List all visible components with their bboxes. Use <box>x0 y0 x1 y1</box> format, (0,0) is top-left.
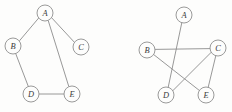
graph-left-nodes: ABCDE <box>5 5 89 102</box>
edge-a-e <box>48 21 68 86</box>
node-c[interactable]: C <box>73 39 89 55</box>
edge-c-e <box>208 56 216 88</box>
node-label-b: B <box>10 42 15 51</box>
node-e[interactable]: E <box>198 87 214 103</box>
node-a[interactable]: A <box>176 7 192 23</box>
node-a[interactable]: A <box>37 5 53 21</box>
edge-b-e <box>154 55 200 91</box>
node-d[interactable]: D <box>158 87 174 103</box>
node-label-a: A <box>41 9 48 18</box>
node-label-d: D <box>162 91 169 100</box>
node-label-c: C <box>78 43 84 52</box>
graph-right-nodes: ABCDE <box>139 7 226 103</box>
edge-a-d <box>168 23 182 88</box>
edge-a-c <box>52 18 75 43</box>
edge-b-d <box>16 54 29 87</box>
node-label-a: A <box>180 11 187 20</box>
node-c[interactable]: C <box>210 40 226 56</box>
node-d[interactable]: D <box>23 86 39 102</box>
graph-canvas: ABCDEABCDE <box>0 0 232 112</box>
node-b[interactable]: B <box>5 38 21 54</box>
graph-figure: ABCDEABCDE <box>0 0 232 112</box>
graph-left-edges <box>16 18 75 94</box>
edge-b-c <box>155 49 210 50</box>
node-label-e: E <box>68 90 74 99</box>
node-e[interactable]: E <box>64 86 80 102</box>
node-label-b: B <box>144 46 149 55</box>
node-b[interactable]: B <box>139 42 155 58</box>
graph-right-edges <box>154 23 216 91</box>
edges-layer <box>16 18 216 94</box>
node-label-e: E <box>202 91 208 100</box>
node-label-c: C <box>215 44 221 53</box>
node-label-d: D <box>27 90 34 99</box>
nodes-layer: ABCDEABCDE <box>5 5 226 103</box>
edge-a-b <box>19 18 38 41</box>
